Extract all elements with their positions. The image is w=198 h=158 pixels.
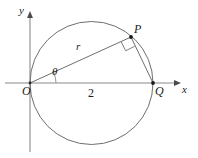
label-radius-r: r bbox=[76, 41, 80, 52]
x-axis-label: x bbox=[182, 84, 187, 95]
label-diameter-two: 2 bbox=[88, 87, 94, 99]
label-origin-o: O bbox=[22, 85, 31, 97]
right-angle-marker-icon bbox=[121, 42, 135, 51]
label-point-q: Q bbox=[155, 85, 164, 97]
geometry-figure: y x O Q P r 2 θ bbox=[0, 0, 198, 158]
segment-pq bbox=[131, 37, 153, 83]
x-axis-arrowhead bbox=[174, 80, 181, 86]
label-angle-theta: θ bbox=[52, 66, 57, 77]
point-marker-p bbox=[129, 35, 133, 39]
segment-op bbox=[30, 37, 131, 83]
figure-canvas bbox=[0, 0, 198, 158]
label-point-p: P bbox=[134, 23, 141, 35]
y-axis-label: y bbox=[19, 5, 24, 16]
y-axis-arrowhead bbox=[27, 11, 33, 18]
